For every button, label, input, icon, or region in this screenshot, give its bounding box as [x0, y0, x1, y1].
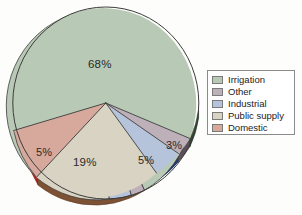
legend-label-industrial: Industrial [228, 99, 267, 109]
slice-label-industrial: 5% [138, 155, 154, 166]
legend-item-irrigation: Irrigation [212, 74, 294, 86]
legend-swatch-icon-domestic [212, 124, 223, 132]
legend-item-other: Other [212, 86, 294, 98]
slice-label-irrigation: 68% [88, 59, 112, 71]
legend-label-public-supply: Public supply [228, 111, 284, 121]
slice-label-domestic: 5% [36, 147, 52, 158]
legend-item-public-supply: Public supply [212, 110, 294, 122]
pie-chart-figure: 68% 5% 19% 5% 3% Irrigation Other Indust… [0, 0, 302, 215]
legend-swatch-icon-other [212, 88, 223, 96]
slice-label-public-supply: 19% [73, 157, 97, 169]
legend-swatch-icon-public-supply [212, 112, 223, 120]
legend-label-irrigation: Irrigation [228, 75, 265, 85]
chart-legend: Irrigation Other Industrial Public suppl… [207, 70, 295, 135]
legend-swatch-icon-irrigation [212, 76, 223, 84]
legend-label-other: Other [228, 87, 252, 97]
legend-label-domestic: Domestic [228, 123, 268, 133]
pie-chart-area: 68% 5% 19% 5% 3% [0, 0, 210, 215]
legend-item-industrial: Industrial [212, 98, 294, 110]
slice-label-other: 3% [166, 140, 182, 151]
legend-item-domestic: Domestic [212, 122, 294, 134]
pie-chart-svg [0, 0, 210, 215]
legend-swatch-icon-industrial [212, 100, 223, 108]
